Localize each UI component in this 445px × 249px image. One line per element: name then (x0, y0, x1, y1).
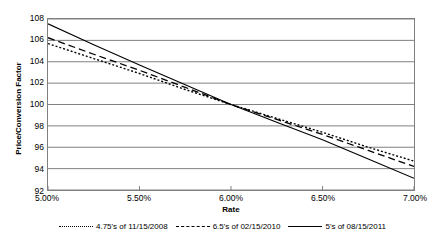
x-axis-tick-label: 6.50% (311, 193, 335, 203)
series-line (48, 24, 414, 178)
x-axis-tick-labels: 5.00%5.50%6.00%6.50%7.00% (47, 193, 415, 205)
legend-item[interactable]: 4.75's of 11/15/2008 (59, 222, 168, 231)
legend-item[interactable]: 6.5's of 02/15/2010 (176, 222, 281, 231)
series-line (48, 44, 414, 162)
y-axis-tick-label: 106 (20, 35, 44, 44)
x-axis-title: Rate (47, 205, 415, 214)
legend-item-label: 4.75's of 11/15/2008 (96, 222, 168, 231)
legend-line-swatch-solid (288, 223, 322, 231)
x-axis-title-text: Rate (222, 205, 239, 214)
chart-legend: 4.75's of 11/15/20086.5's of 02/15/20105… (0, 222, 445, 231)
legend-line-swatch-dotted (59, 223, 93, 231)
plot-svg (48, 19, 414, 190)
y-axis-tick-label: 104 (20, 57, 44, 66)
legend-item-label: 6.5's of 02/15/2010 (213, 222, 281, 231)
series-lines (48, 24, 414, 178)
x-axis-tick-label: 6.00% (219, 193, 243, 203)
x-axis-tick-label: 5.50% (127, 193, 151, 203)
y-axis-tick-label: 108 (20, 14, 44, 23)
y-axis-tick-label: 100 (20, 100, 44, 109)
price-conversion-factor-chart: Price/Conversion Factor 9294969810010210… (0, 0, 445, 249)
legend-item-label: 5's of 08/15/2011 (325, 222, 386, 231)
x-axis-tick-label: 7.00% (403, 193, 427, 203)
x-axis-tick-label: 5.00% (35, 193, 59, 203)
y-axis-tick-label: 102 (20, 78, 44, 87)
y-axis-tick-labels: 92949698100102104106108 (20, 0, 44, 249)
y-axis-tick-label: 96 (20, 143, 44, 152)
y-axis-tick-label: 94 (20, 165, 44, 174)
y-axis-tick-label: 98 (20, 122, 44, 131)
plot-area (47, 18, 415, 191)
legend-line-swatch-dashed (176, 223, 210, 231)
legend-item[interactable]: 5's of 08/15/2011 (288, 222, 386, 231)
